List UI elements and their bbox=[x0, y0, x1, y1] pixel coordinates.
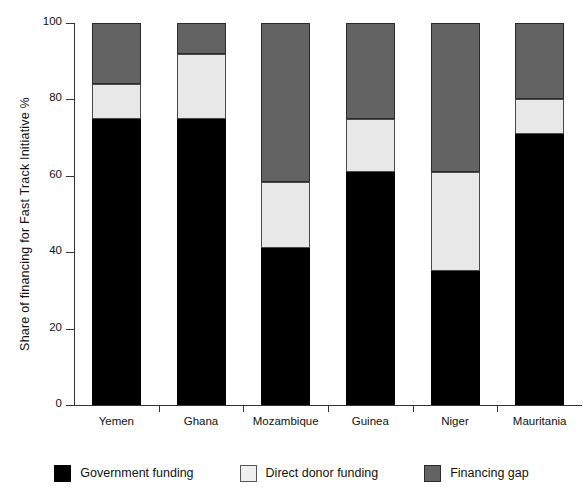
y-axis-line bbox=[74, 23, 75, 405]
legend-item-government-funding[interactable]: Government funding bbox=[54, 465, 193, 482]
y-tick-label: 0 bbox=[32, 397, 62, 409]
y-tick-label: 100 bbox=[32, 15, 62, 27]
x-tick-mark bbox=[413, 405, 414, 412]
bar-guinea[interactable] bbox=[346, 23, 395, 405]
bar-segment-financing-gap[interactable] bbox=[346, 23, 395, 119]
bar-segment-direct-donor-funding[interactable] bbox=[431, 172, 480, 271]
y-tick-mark bbox=[66, 405, 74, 406]
legend-swatch-icon bbox=[54, 465, 71, 482]
y-tick-mark bbox=[66, 329, 74, 330]
bar-ghana[interactable] bbox=[177, 23, 226, 405]
legend-item-financing-gap[interactable]: Financing gap bbox=[424, 465, 529, 482]
bar-segment-government-funding[interactable] bbox=[177, 119, 226, 406]
legend-label: Direct donor funding bbox=[266, 466, 379, 480]
bar-segment-government-funding[interactable] bbox=[92, 119, 141, 406]
legend-label: Financing gap bbox=[450, 466, 529, 480]
chart-figure: Share of financing for Fast Track Initia… bbox=[0, 0, 583, 503]
x-tick-mark bbox=[159, 405, 160, 412]
legend-label: Government funding bbox=[80, 466, 193, 480]
y-tick-mark bbox=[66, 252, 74, 253]
bar-segment-financing-gap[interactable] bbox=[92, 23, 141, 84]
bar-segment-direct-donor-funding[interactable] bbox=[177, 54, 226, 119]
plot-area: 020406080100 YemenGhanaMozambiqueGuineaN… bbox=[74, 23, 582, 405]
bar-segment-government-funding[interactable] bbox=[515, 134, 564, 405]
bar-segment-direct-donor-funding[interactable] bbox=[515, 99, 564, 133]
y-tick-label: 40 bbox=[32, 244, 62, 256]
bar-segment-financing-gap[interactable] bbox=[261, 23, 310, 182]
x-tick-label-ghana: Ghana bbox=[159, 415, 244, 427]
bar-segment-government-funding[interactable] bbox=[346, 172, 395, 405]
y-tick-mark bbox=[66, 176, 74, 177]
x-tick-label-guinea: Guinea bbox=[328, 415, 413, 427]
bar-yemen[interactable] bbox=[92, 23, 141, 405]
chart-legend: Government fundingDirect donor fundingFi… bbox=[0, 458, 583, 488]
x-tick-mark bbox=[328, 405, 329, 412]
bar-segment-direct-donor-funding[interactable] bbox=[92, 84, 141, 118]
x-tick-label-mozambique: Mozambique bbox=[243, 415, 328, 427]
bar-niger[interactable] bbox=[431, 23, 480, 405]
bar-mauritania[interactable] bbox=[515, 23, 564, 405]
y-tick-label: 20 bbox=[32, 321, 62, 333]
x-tick-mark bbox=[243, 405, 244, 412]
y-tick-mark bbox=[66, 23, 74, 24]
y-tick-mark bbox=[66, 99, 74, 100]
legend-swatch-icon bbox=[240, 465, 257, 482]
x-tick-mark bbox=[497, 405, 498, 412]
y-axis-title: Share of financing for Fast Track Initia… bbox=[18, 54, 40, 394]
bar-segment-government-funding[interactable] bbox=[261, 248, 310, 405]
bar-segment-direct-donor-funding[interactable] bbox=[261, 182, 310, 249]
x-tick-label-yemen: Yemen bbox=[74, 415, 159, 427]
legend-swatch-icon bbox=[424, 465, 441, 482]
x-tick-label-niger: Niger bbox=[413, 415, 498, 427]
x-tick-label-mauritania: Mauritania bbox=[497, 415, 582, 427]
y-tick-label: 80 bbox=[32, 91, 62, 103]
bar-segment-financing-gap[interactable] bbox=[177, 23, 226, 54]
bar-segment-direct-donor-funding[interactable] bbox=[346, 119, 395, 172]
bar-segment-financing-gap[interactable] bbox=[515, 23, 564, 99]
y-tick-label: 60 bbox=[32, 168, 62, 180]
bar-mozambique[interactable] bbox=[261, 23, 310, 405]
bar-segment-government-funding[interactable] bbox=[431, 271, 480, 405]
legend-item-direct-donor-funding[interactable]: Direct donor funding bbox=[240, 465, 379, 482]
bar-segment-financing-gap[interactable] bbox=[431, 23, 480, 172]
